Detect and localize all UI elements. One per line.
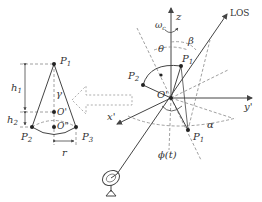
p1-projected-point <box>186 128 190 132</box>
theta-label: θ <box>158 43 164 54</box>
cone-model: P1 γ O' O" P2 P3 h1 h2 r <box>7 55 94 158</box>
center-point <box>159 73 162 76</box>
z-axis-label: z <box>175 11 182 22</box>
p1-point <box>179 64 183 68</box>
cone-center-upper-label: O' <box>57 107 67 117</box>
cone-apex-label: P1 <box>59 55 71 68</box>
los-label: LOS <box>230 8 250 18</box>
h2-label: h2 <box>7 114 18 127</box>
p1-label: P1 <box>181 53 193 66</box>
cone-center-upper-point <box>52 110 56 114</box>
phi-label: ϕ(t) <box>158 149 177 160</box>
cone-apex-point <box>52 62 56 66</box>
radar-cone-geometry-diagram: P1 γ O' O" P2 P3 h1 h2 r <box>0 0 262 202</box>
y-axis-label: y' <box>243 101 252 112</box>
p2-point <box>141 83 145 87</box>
alpha-label: α <box>207 119 214 130</box>
cone-center-lower-label: O" <box>57 121 69 131</box>
x-axis-label: x' <box>107 111 115 122</box>
cone-base-right-point <box>74 125 78 129</box>
cone-center-lower-point <box>52 125 56 129</box>
h1-label: h1 <box>11 82 22 95</box>
radius-label: r <box>62 147 68 158</box>
beta-label: β <box>187 35 194 46</box>
p2-label: P2 <box>127 70 140 83</box>
transform-arrow <box>72 86 132 114</box>
cone-base-left-point <box>30 125 34 129</box>
p1-projected-label: P1 <box>192 131 204 144</box>
origin-point <box>169 96 173 100</box>
origin-label: O' <box>157 89 168 100</box>
cone-base-right-label: P3 <box>81 131 94 144</box>
cone-angle-label: γ <box>56 88 62 99</box>
coordinate-frame: z ωc LOS θ β P1 P2 O' y' x' α P1 ϕ(t) <box>107 8 252 174</box>
omega-label: ωc <box>155 20 166 31</box>
cone-base-left-label: P2 <box>20 131 33 144</box>
